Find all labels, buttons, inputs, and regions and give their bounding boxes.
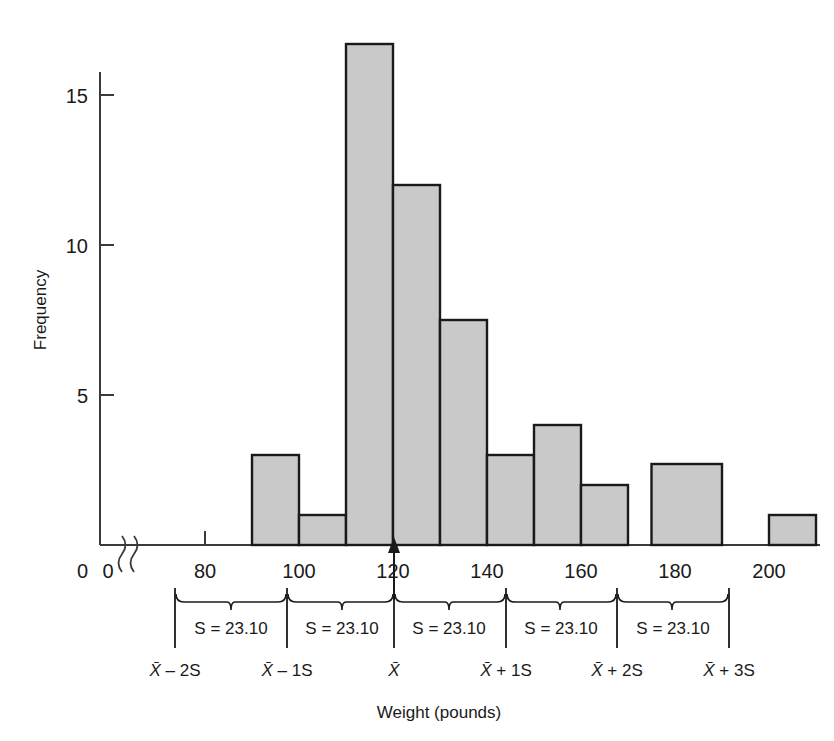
brace-band-1 <box>176 594 286 610</box>
histogram-bars <box>252 44 816 545</box>
xbar-glyph: X̄ <box>260 661 273 680</box>
xbar-glyph: X̄ <box>387 661 400 680</box>
xbar-glyph: X̄ <box>702 661 715 680</box>
x-tick-label-100: 100 <box>282 560 315 582</box>
axis-break-icon <box>119 536 138 572</box>
x-tick-label-80: 80 <box>194 560 216 582</box>
y-tick-label-10: 10 <box>66 235 88 257</box>
xbar-glyph: X̄ <box>148 661 161 680</box>
histogram-bar <box>252 455 299 545</box>
histogram-figure: 15 10 5 0 Frequency 0 80 100 120 140 160 <box>0 0 834 741</box>
interval-op-plus2s: + 2S <box>603 661 643 680</box>
brace-band-2 <box>288 594 393 610</box>
brace-band-5 <box>618 594 728 610</box>
interval-label-minus2s: X̄ – 2S <box>148 661 200 680</box>
sd-band-braces <box>176 594 728 610</box>
x-axis-title: Weight (pounds) <box>377 703 501 722</box>
x-tick-label-180: 180 <box>658 560 691 582</box>
histogram-bar <box>581 485 628 545</box>
x-tick-label-0: 0 <box>102 560 113 582</box>
histogram-chart: 15 10 5 0 Frequency 0 80 100 120 140 160 <box>0 0 834 741</box>
interval-op-minus2s: – 2S <box>161 661 201 680</box>
xbar-glyph: X̄ <box>479 661 492 680</box>
sd-band-label-4: S = 23.10 <box>524 619 597 638</box>
xbar-glyph: X̄ <box>590 661 603 680</box>
sd-band-label-1: S = 23.10 <box>194 619 267 638</box>
sd-band-label-5: S = 23.10 <box>636 619 709 638</box>
x-tick-label-140: 140 <box>470 560 503 582</box>
interval-op-plus1s: + 1S <box>492 661 532 680</box>
y-axis-title: Frequency <box>31 269 50 350</box>
histogram-bar <box>652 464 723 545</box>
brace-band-4 <box>507 594 616 610</box>
histogram-bar <box>299 515 346 545</box>
interval-boundary-ticks <box>175 588 729 648</box>
interval-label-plus1s: X̄ + 1S <box>479 661 532 680</box>
sd-band-label-3: S = 23.10 <box>412 619 485 638</box>
x-tick-label-160: 160 <box>564 560 597 582</box>
y-axis-ticks <box>100 95 114 395</box>
histogram-bar <box>534 425 581 545</box>
y-tick-label-15: 15 <box>66 85 88 107</box>
x-tick-label-200: 200 <box>752 560 785 582</box>
y-tick-label-0: 0 <box>77 560 88 582</box>
y-tick-label-5: 5 <box>77 385 88 407</box>
interval-label-minus1s: X̄ – 1S <box>260 661 312 680</box>
histogram-bar <box>769 515 816 545</box>
interval-label-mean: X̄ <box>387 661 400 680</box>
interval-boundary-labels: X̄ – 2S X̄ – 1S X̄ X̄ + 1S X̄ + 2S X̄ + … <box>148 661 754 680</box>
histogram-bar <box>393 185 440 545</box>
interval-label-plus3s: X̄ + 3S <box>702 661 755 680</box>
histogram-bar <box>487 455 534 545</box>
histogram-bar <box>346 44 393 545</box>
interval-op-minus1s: – 1S <box>273 661 313 680</box>
brace-band-3 <box>395 594 505 610</box>
histogram-bar <box>440 320 487 545</box>
interval-op-plus3s: + 3S <box>715 661 755 680</box>
sd-band-label-2: S = 23.10 <box>305 619 378 638</box>
interval-label-plus2s: X̄ + 2S <box>590 661 643 680</box>
